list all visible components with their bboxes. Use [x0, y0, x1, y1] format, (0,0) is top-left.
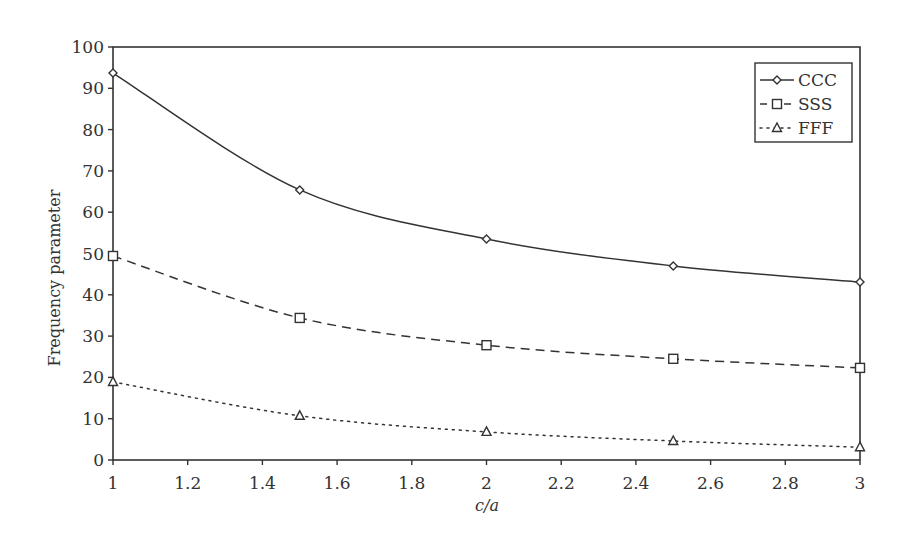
x-axis-ticks: 11.21.41.61.822.22.42.62.83: [108, 460, 866, 493]
series-line-ccc: [113, 73, 860, 282]
square-legend-icon: [773, 100, 782, 109]
legend-label: SSS: [798, 94, 832, 114]
x-tick-label: 2.2: [548, 473, 575, 493]
x-tick-label: 2.6: [697, 473, 724, 493]
plot-frame: [113, 47, 860, 460]
x-tick-label: 1.6: [324, 473, 351, 493]
x-axis-label: c/a: [475, 496, 499, 515]
legend: CCCSSSFFF: [755, 63, 852, 142]
y-tick-label: 10: [82, 409, 104, 429]
triangle-marker-icon: [295, 411, 304, 420]
series-line-fff: [113, 382, 860, 447]
legend-label: CCC: [798, 70, 837, 90]
y-tick-label: 80: [82, 120, 104, 140]
square-marker-icon: [109, 251, 118, 260]
y-tick-label: 90: [82, 78, 104, 98]
series-lines: [113, 73, 860, 447]
y-tick-label: 60: [82, 202, 104, 222]
legend-label: FFF: [798, 118, 834, 138]
diamond-marker-icon: [296, 186, 304, 194]
square-marker-icon: [669, 354, 678, 363]
y-axis-ticks: 0102030405060708090100: [72, 37, 113, 470]
x-tick-label: 2.4: [622, 473, 649, 493]
y-tick-label: 50: [82, 244, 104, 264]
x-tick-label: 2: [481, 473, 492, 493]
x-tick-label: 1.4: [249, 473, 276, 493]
plot-area-border: [113, 47, 860, 460]
chart: 0102030405060708090100 11.21.41.61.822.2…: [0, 0, 907, 539]
y-tick-label: 100: [72, 37, 104, 57]
x-tick-label: 1.8: [398, 473, 425, 493]
y-tick-label: 0: [93, 450, 104, 470]
x-tick-label: 2.8: [772, 473, 799, 493]
diamond-marker-icon: [483, 235, 491, 243]
triangle-marker-icon: [856, 442, 865, 451]
triangle-marker-icon: [109, 377, 118, 386]
diamond-marker-icon: [856, 278, 864, 286]
y-tick-label: 20: [82, 367, 104, 387]
diamond-marker-icon: [669, 262, 677, 270]
x-tick-label: 1: [108, 473, 119, 493]
square-marker-icon: [856, 363, 865, 372]
y-tick-label: 70: [82, 161, 104, 181]
square-marker-icon: [482, 341, 491, 350]
x-tick-label: 3: [855, 473, 866, 493]
x-tick-label: 1.2: [174, 473, 201, 493]
triangle-marker-icon: [482, 427, 491, 436]
series-markers: [109, 69, 865, 451]
y-tick-label: 30: [82, 326, 104, 346]
y-tick-label: 40: [82, 285, 104, 305]
diamond-marker-icon: [109, 69, 117, 77]
y-axis-label: Frequency parameter: [45, 189, 64, 366]
square-marker-icon: [295, 313, 304, 322]
